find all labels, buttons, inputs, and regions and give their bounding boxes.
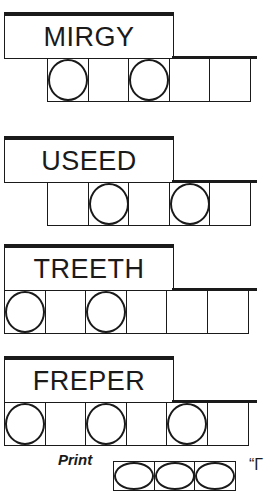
answer-cells — [4, 402, 249, 446]
letter-cell[interactable] — [47, 182, 89, 226]
letter-cell[interactable] — [166, 290, 208, 334]
scrambled-word: FREPER — [4, 356, 174, 403]
answer-cells — [47, 58, 251, 102]
final-answer-cells — [113, 461, 236, 491]
letter-cell[interactable] — [88, 58, 130, 102]
letter-cell[interactable] — [128, 182, 170, 226]
letter-cell[interactable] — [207, 290, 249, 334]
scrambled-word: MIRGY — [4, 12, 174, 59]
letter-cell[interactable] — [45, 290, 87, 334]
letter-cell-circled[interactable] — [4, 402, 46, 446]
letter-cell-circled[interactable] — [47, 58, 89, 102]
letter-cell-circled[interactable] — [85, 402, 127, 446]
letter-cell[interactable] — [169, 58, 211, 102]
scrambled-word: TREETH — [4, 244, 174, 291]
scrambled-word: USEED — [4, 136, 174, 183]
letter-cell[interactable] — [207, 402, 249, 446]
letter-cell-circled[interactable] — [4, 290, 46, 334]
quote-mark: “Γ — [249, 456, 263, 474]
answer-cells — [47, 182, 251, 226]
letter-cell[interactable] — [45, 402, 87, 446]
print-label: Print — [58, 451, 92, 468]
letter-cell[interactable] — [126, 290, 168, 334]
letter-cell-circled[interactable] — [85, 290, 127, 334]
final-letter-cell[interactable] — [194, 461, 236, 491]
letter-cell-circled[interactable] — [166, 402, 208, 446]
final-letter-cell[interactable] — [154, 461, 196, 491]
final-letter-cell[interactable] — [113, 461, 155, 491]
letter-cell-circled[interactable] — [169, 182, 211, 226]
answer-cells — [4, 290, 249, 334]
letter-cell-circled[interactable] — [88, 182, 130, 226]
letter-cell[interactable] — [209, 182, 251, 226]
letter-cell-circled[interactable] — [128, 58, 170, 102]
letter-cell[interactable] — [209, 58, 251, 102]
letter-cell[interactable] — [126, 402, 168, 446]
